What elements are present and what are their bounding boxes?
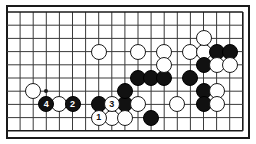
stone-white-move-1: 1 xyxy=(91,110,107,126)
stone-white xyxy=(25,83,41,99)
hoshi-point xyxy=(44,89,48,93)
stone-white xyxy=(91,44,107,60)
move-number: 2 xyxy=(70,100,75,109)
stone-white xyxy=(222,57,238,73)
stone-white xyxy=(130,96,146,112)
stone-black xyxy=(182,70,198,86)
stone-black-move-4: 4 xyxy=(38,96,54,112)
stone-white xyxy=(117,110,133,126)
stone-white xyxy=(169,96,185,112)
move-number: 1 xyxy=(96,113,101,122)
move-number: 3 xyxy=(109,100,114,109)
stone-white xyxy=(196,30,212,46)
stone-black-move-2: 2 xyxy=(65,96,81,112)
stone-white xyxy=(130,44,146,60)
go-board-diagram: 4231 xyxy=(0,0,256,144)
stone-black xyxy=(117,83,133,99)
stone-black xyxy=(143,110,159,126)
stone-white-move-3: 3 xyxy=(104,96,120,112)
move-number: 4 xyxy=(44,100,49,109)
stone-white xyxy=(209,96,225,112)
stone-white xyxy=(156,57,172,73)
